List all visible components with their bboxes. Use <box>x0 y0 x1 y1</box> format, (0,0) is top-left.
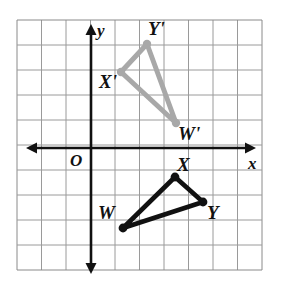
point-label-w-prime: W' <box>178 124 200 143</box>
point-label-y-prime: Y' <box>148 19 165 38</box>
point-label-x-prime: X' <box>99 72 117 91</box>
point-label-y: Y <box>207 203 219 222</box>
y-axis-arrow-up <box>86 24 97 35</box>
vertex-dot <box>117 68 125 76</box>
plot-canvas <box>0 0 300 300</box>
point-label-w: W <box>98 203 115 222</box>
vertex-dot <box>143 40 151 48</box>
origin-label: O <box>70 152 82 169</box>
vertex-dot <box>119 224 128 233</box>
y-axis-label: y <box>97 22 105 39</box>
point-label-x: X <box>177 155 190 174</box>
y-axis-arrow-down <box>86 263 97 274</box>
triangle-outline <box>121 44 176 123</box>
x-axis-arrow-right <box>245 143 256 154</box>
coordinate-plane-figure: W X Y X' Y' W' O x y <box>0 0 300 300</box>
axes <box>26 24 256 274</box>
grid-lines <box>17 20 262 270</box>
x-axis-label: x <box>248 155 257 172</box>
x-axis-arrow-left <box>26 143 37 154</box>
preimage-triangle-wxy <box>119 173 208 233</box>
image-triangle-wxy-prime <box>117 40 180 127</box>
